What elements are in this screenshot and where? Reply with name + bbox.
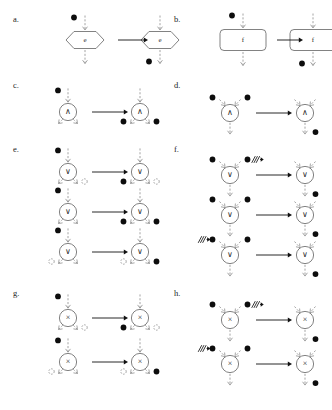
gate-e-after-label: ∨ <box>137 167 143 176</box>
transition-arrow-c-0-head <box>124 109 128 114</box>
figure-canvas: a.Event node e: a single token on the in… <box>0 0 332 410</box>
out-token-e0after-1 <box>154 179 159 184</box>
in-token-h1before-1 <box>245 346 251 352</box>
panel-label-b: b. <box>174 14 180 24</box>
state-b-0-before: f <box>220 13 266 66</box>
out-token-h0after <box>313 336 319 342</box>
state-g-0-before: × <box>55 294 87 331</box>
panel-a: a.Event node e: a single token on the in… <box>13 14 179 64</box>
in-token-g1before <box>55 338 61 344</box>
gate-d-after-label: ∧ <box>302 108 308 117</box>
state-h-0-before: × <box>210 302 264 342</box>
state-a-0-before: e <box>66 15 104 64</box>
in-token-f2before-1 <box>245 237 251 243</box>
out-token-g0before-1 <box>82 325 87 330</box>
gate-e-before-label: ∨ <box>65 207 71 216</box>
state-d-0-after: ∧ <box>295 100 319 136</box>
state-e-0-before: ∨ <box>55 148 87 185</box>
transition-arrow-g-0-head <box>124 315 128 320</box>
firing-semantics-figure: a.Event node e: a single token on the in… <box>0 0 332 410</box>
out-token-f0after <box>313 191 319 197</box>
gate-h-after-label: × <box>303 359 308 368</box>
gate-f-before-label: ∨ <box>227 170 233 179</box>
state-f-2-after: ∨ <box>295 242 319 278</box>
out-token-g1after-1 <box>154 369 160 375</box>
transition-arrow-h-0-head <box>288 317 292 322</box>
panel-label-e: e. <box>13 144 19 154</box>
out-token-e1after-0 <box>121 219 127 225</box>
out-token-g1before-0 <box>49 369 54 374</box>
blocked-flow-h0before-1 <box>252 302 264 308</box>
state-g-0-after: × <box>121 294 160 330</box>
transition-arrow-f-0-head <box>288 172 292 177</box>
gate-d-before-label: ∧ <box>227 108 233 117</box>
transition-arrow-e-2-head <box>124 249 128 254</box>
gate-f-before-label: ∨ <box>227 210 233 219</box>
panel-label-h: h. <box>174 288 180 298</box>
in-token-b0before <box>229 13 235 19</box>
in-token-h0before-0 <box>210 302 216 308</box>
in-token-e1before <box>55 188 61 194</box>
state-e-1-after: ∨ <box>121 188 160 224</box>
in-token-f1before-1 <box>245 197 251 203</box>
out-token-b0after <box>299 61 305 67</box>
state-g-1-after: × <box>121 338 160 374</box>
gate-e-before-label: ∨ <box>65 247 71 256</box>
gate-f-after-label: ∨ <box>302 170 308 179</box>
state-h-0-after: × <box>295 307 319 343</box>
panel-f: f.OR-join: tokens on the enabled incomin… <box>174 144 318 277</box>
in-token-e2before <box>55 228 61 234</box>
in-token-d0before-1 <box>245 95 251 101</box>
state-g-1-before: × <box>49 338 78 375</box>
transition-arrow-d-0-head <box>288 110 292 115</box>
state-d-0-before: ∧ <box>210 95 251 135</box>
in-token-g0before <box>55 294 61 300</box>
in-token-c0before <box>55 88 61 94</box>
panel-d: d.AND-join: tokens on all incoming flows… <box>174 80 318 135</box>
gate-e-after-label: ∨ <box>137 247 143 256</box>
out-token-c0after-0 <box>121 119 127 125</box>
out-token-e2before-0 <box>49 259 54 264</box>
in-token-f0before-0 <box>210 157 216 163</box>
out-token-g1after-0 <box>121 369 126 374</box>
node-a-after-label: e <box>158 36 161 44</box>
blocked-flow-f2before-0 <box>198 237 210 243</box>
gate-h-before-label: × <box>228 359 233 368</box>
out-token-e1after-1 <box>154 219 160 225</box>
out-token-e2after-0 <box>121 259 126 264</box>
in-token-f0before-1 <box>245 157 251 163</box>
transition-arrow-e-0-head <box>124 169 128 174</box>
out-token-f1after <box>313 231 319 237</box>
gate-g-before-label: × <box>66 357 71 366</box>
blocked-flow-f0before-1 <box>252 157 264 163</box>
state-f-2-before: ∨ <box>198 237 250 277</box>
panel-e: e.OR-split: one input token produces tok… <box>13 144 159 264</box>
blocked-flow-h0before-1-head <box>261 302 264 307</box>
out-token-f2after <box>313 271 319 277</box>
gate-h-after-label: × <box>303 315 308 324</box>
in-token-f1before-0 <box>210 197 216 203</box>
gate-h-before-label: × <box>228 315 233 324</box>
panel-c: c.AND-split: one input token produces a … <box>13 80 159 124</box>
state-e-2-before: ∨ <box>49 228 78 265</box>
state-h-1-after: × <box>295 351 319 387</box>
state-f-0-before: ∨ <box>210 157 264 197</box>
out-token-d0after <box>313 129 319 135</box>
gate-f-after-label: ∨ <box>302 210 308 219</box>
state-c-0-before: ∧ <box>55 88 77 124</box>
panel-label-g: g. <box>13 288 19 298</box>
blocked-flow-h1before-0-head <box>207 346 210 351</box>
out-token-c0after-1 <box>154 119 160 125</box>
panel-label-d: d. <box>174 80 180 90</box>
in-token-d0before-0 <box>210 95 216 101</box>
state-e-1-before: ∨ <box>55 188 77 224</box>
gate-c-before-label: ∧ <box>65 107 71 116</box>
gate-g-before-label: × <box>66 313 71 322</box>
in-token-e0before <box>55 148 61 154</box>
transition-arrow-e-1-head <box>124 209 128 214</box>
blocked-flow-h1before-0 <box>198 346 210 352</box>
state-f-1-after: ∨ <box>295 202 319 238</box>
state-f-1-before: ∨ <box>210 197 251 237</box>
in-token-h1before-0 <box>210 346 216 352</box>
transition-arrow-g-1-head <box>124 359 128 364</box>
